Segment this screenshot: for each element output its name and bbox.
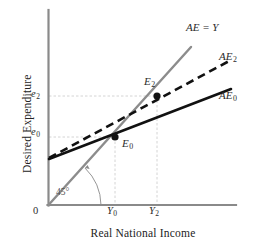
angle-label: 45° [56, 188, 69, 198]
curve-ae0 [49, 89, 231, 159]
x-tick-label-y2-sub: 2 [155, 209, 159, 218]
y-tick-label-e0-text: e [31, 126, 36, 137]
y-tick-label-e0: e0 [31, 127, 40, 138]
economics-figure: Desired Expenditure Real National Income… [0, 0, 256, 245]
point-label-e0: E0 [122, 138, 133, 151]
point-label-e2-text: E [144, 75, 151, 87]
point-e2 [153, 92, 160, 99]
point-label-e2-sub: 2 [151, 80, 155, 89]
curve-label-ae0: AE0 [219, 90, 237, 103]
curve-ae2 [49, 60, 231, 158]
x-tick-label-y2: Y2 [149, 206, 159, 217]
curve-label-ae-equals-y-text: AE = Y [186, 21, 218, 33]
x-axis-title: Real National Income [48, 228, 238, 240]
y-tick-label-e0-sub: 0 [36, 130, 40, 139]
plot-canvas [0, 0, 256, 245]
curve-ae-equals-y [49, 47, 192, 205]
curve-label-ae0-text: AE [219, 89, 232, 101]
x-tick-label-y0: Y0 [107, 206, 117, 217]
curve-label-ae0-sub: 0 [232, 94, 236, 103]
point-e0 [111, 133, 118, 140]
curve-label-ae2: AE2 [219, 51, 237, 64]
x-tick-label-y0-text: Y [107, 205, 113, 216]
y-axis-title: Desired Expenditure [22, 44, 34, 204]
y-tick-label-e2: e2 [31, 89, 40, 100]
x-tick-label-y0-sub: 0 [113, 209, 117, 218]
angle-arc-icon [85, 168, 101, 205]
y-tick-label-e2-text: e [31, 88, 36, 99]
curve-label-ae2-sub: 2 [232, 55, 236, 64]
curve-label-ae2-text: AE [219, 50, 232, 62]
origin-label: 0 [33, 206, 38, 217]
point-label-e0-text: E [122, 137, 129, 149]
point-label-e2: E2 [144, 76, 155, 89]
x-tick-label-y2-text: Y [149, 205, 155, 216]
curve-label-ae-equals-y: AE = Y [186, 22, 218, 33]
y-tick-label-e2-sub: 2 [36, 92, 40, 101]
point-label-e0-sub: 0 [129, 142, 133, 151]
